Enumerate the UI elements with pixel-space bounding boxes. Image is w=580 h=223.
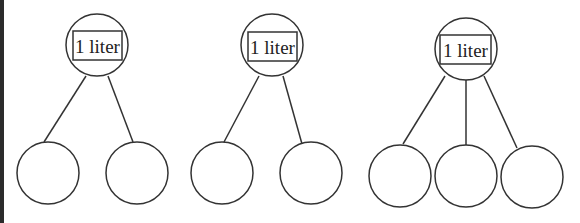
- child-circle: [17, 142, 79, 204]
- tree-2: 1 liter: [191, 14, 342, 204]
- child-circle: [280, 142, 342, 204]
- child-circle: [106, 142, 168, 204]
- connector-line: [484, 76, 517, 148]
- connector-line: [224, 76, 259, 142]
- root-label: 1 liter: [250, 37, 296, 58]
- child-circle: [501, 146, 563, 208]
- connector-line: [403, 76, 445, 144]
- child-circle: [369, 145, 431, 207]
- connector-line: [108, 76, 133, 142]
- child-circle: [191, 142, 253, 204]
- tree-3: 1 liter: [369, 18, 563, 208]
- child-circle: [435, 145, 497, 207]
- root-label: 1 liter: [75, 36, 121, 57]
- connector-line: [44, 76, 86, 142]
- connector-line: [283, 76, 302, 144]
- tree-diagrams: 1 liter1 liter1 liter: [0, 0, 580, 223]
- root-label: 1 liter: [443, 40, 489, 61]
- tree-1: 1 liter: [17, 14, 168, 204]
